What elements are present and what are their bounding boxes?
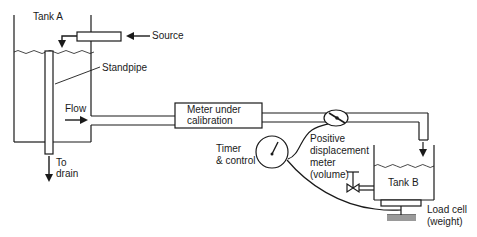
pd-meter-label-line3: meter [310, 157, 336, 168]
standpipe-leader [55, 67, 100, 84]
load-cell-label-line1: Load cell [427, 204, 467, 215]
pd-meter-label-line4: (volume) [310, 169, 349, 180]
flow-label: Flow [65, 103, 86, 114]
timer-dial [256, 136, 288, 168]
calibration-diagram [0, 0, 477, 237]
tank-b-valve-icon [347, 172, 374, 192]
source-pipe [77, 32, 121, 41]
meter-under-calibration-label-line1: Meter under [187, 104, 241, 115]
standpipe [45, 51, 53, 154]
load-cell-label-line2: (weight) [427, 216, 463, 227]
timer-label-line2: & control [216, 155, 255, 166]
timer-label-line1: Timer [216, 143, 241, 154]
tank-a-label: Tank A [33, 11, 63, 22]
drain-label-line1: To [56, 157, 67, 168]
meter-under-calibration-label-line2: calibration [187, 115, 233, 126]
standpipe-label: Standpipe [102, 62, 147, 73]
pd-meter-label-line2: displacement [310, 145, 369, 156]
tank-b [374, 145, 434, 200]
source-label: Source [152, 30, 184, 41]
tank-b-water-surface [374, 165, 434, 168]
tank-b-label: Tank B [388, 177, 419, 188]
inlet-pipe [91, 116, 175, 125]
source-outflow-arrow-icon [62, 36, 77, 46]
tank-a-water-surface [14, 51, 94, 54]
drain-label-line2: drain [56, 168, 78, 179]
pd-meter-label-line1: Positive [310, 133, 345, 144]
